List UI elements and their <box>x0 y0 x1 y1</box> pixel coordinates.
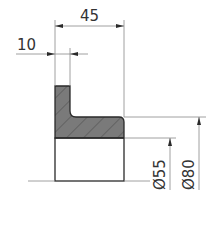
dimension-d55-label: Ø55 <box>151 159 169 190</box>
section-drawing: 45 10 Ø55 Ø80 <box>0 0 217 233</box>
dimension-10-label: 10 <box>17 36 36 54</box>
hatched-section <box>55 86 124 138</box>
body-outline <box>55 138 124 181</box>
dimension-45: 45 <box>55 7 124 28</box>
dimension-d55: Ø55 <box>151 138 172 190</box>
dimension-d80: Ø80 <box>180 117 201 190</box>
dimension-45-label: 45 <box>80 7 99 25</box>
dimension-d80-label: Ø80 <box>180 159 198 190</box>
dimension-10: 10 <box>16 36 88 56</box>
